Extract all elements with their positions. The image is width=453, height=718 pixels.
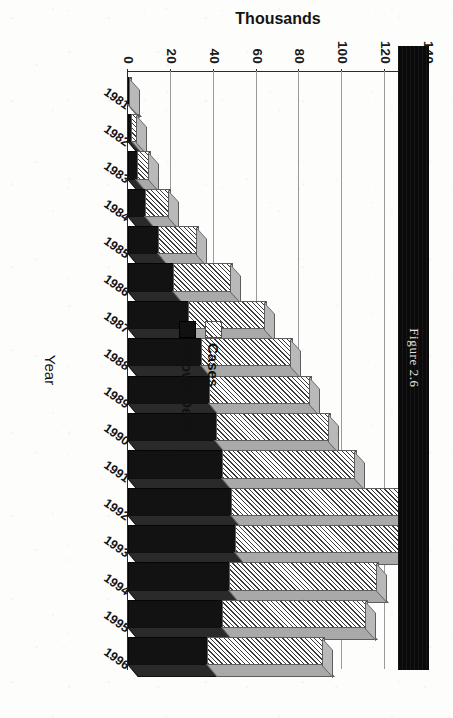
- bar-segment-cases: [230, 488, 408, 516]
- axis-tick-label: 120: [377, 41, 392, 64]
- bar-segment-cases: [228, 562, 378, 590]
- category-axis-title: Year: [42, 355, 59, 385]
- bar-group: 1986: [128, 263, 428, 289]
- bar-segment-known-dead: [128, 226, 160, 254]
- figure-caption-text: Figure 2.6: [406, 328, 422, 387]
- chart-legend: Cases Known Dead: [170, 321, 222, 434]
- figure-caption-banner: Figure 2.6: [398, 46, 429, 670]
- bar-segment-cases: [215, 413, 331, 441]
- bar-segment-known-dead: [128, 637, 209, 665]
- bar-group: 1994: [128, 562, 428, 588]
- axis-tick-label: 20: [163, 49, 178, 64]
- hatched-swatch: [205, 321, 222, 338]
- legend-label-cases: Cases: [205, 343, 222, 387]
- bar-group: 1996: [128, 637, 428, 663]
- legend-item-known-dead: Known Dead: [179, 321, 196, 434]
- bar-segment-known-dead: [128, 263, 175, 291]
- value-axis-title: Thousands: [235, 10, 320, 28]
- bar-segment-cases: [209, 376, 312, 404]
- bar-group: 1985: [128, 226, 428, 252]
- legend-item-cases: Cases: [205, 321, 222, 434]
- axis-tick-label: 80: [291, 49, 306, 64]
- legend-label-known-dead: Known Dead: [179, 343, 196, 434]
- plot-area: 140120100806040200 198119821983198419851…: [128, 71, 428, 669]
- bar-group: 1995: [128, 600, 428, 626]
- axis-tick-label: 100: [334, 41, 349, 64]
- bar-segment-cases: [207, 637, 325, 665]
- bar-side-face: [206, 664, 335, 677]
- black-swatch: [179, 321, 196, 338]
- bar-segment-known-dead: [128, 600, 224, 628]
- scanned-page: 140120100806040200 198119821983198419851…: [0, 0, 453, 718]
- bar-segment-known-dead: [128, 488, 233, 516]
- bar-side-face: [127, 664, 219, 677]
- axis-tick-label: 0: [120, 56, 135, 64]
- bar-segment-cases: [145, 189, 171, 217]
- bar-group: 1991: [128, 450, 428, 476]
- bar-group: 1993: [128, 525, 428, 551]
- bar-segment-cases: [235, 525, 417, 553]
- bar-group: 1982: [128, 114, 428, 140]
- bar-segment-known-dead: [128, 562, 231, 590]
- bar-segment-cases: [136, 151, 151, 179]
- bar-group: 1983: [128, 151, 428, 177]
- bar-top-face: [129, 78, 140, 118]
- bar-segment-cases: [222, 600, 368, 628]
- figure-area: 140120100806040200 198119821983198419851…: [0, 0, 453, 718]
- bar-segment-cases: [173, 263, 233, 291]
- bar-group: 1992: [128, 488, 428, 514]
- bar-segment-cases: [222, 450, 357, 478]
- bar-group: 1984: [128, 189, 428, 215]
- bar-segment-known-dead: [128, 525, 237, 553]
- axis-tick-label: 40: [206, 49, 221, 64]
- rotated-chart-canvas: 140120100806040200 198119821983198419851…: [12, 9, 442, 709]
- bar-segment-known-dead: [128, 450, 224, 478]
- bar-group: 1981: [128, 77, 428, 103]
- axis-tick-label: 60: [249, 49, 264, 64]
- bar-segment-cases: [158, 226, 199, 254]
